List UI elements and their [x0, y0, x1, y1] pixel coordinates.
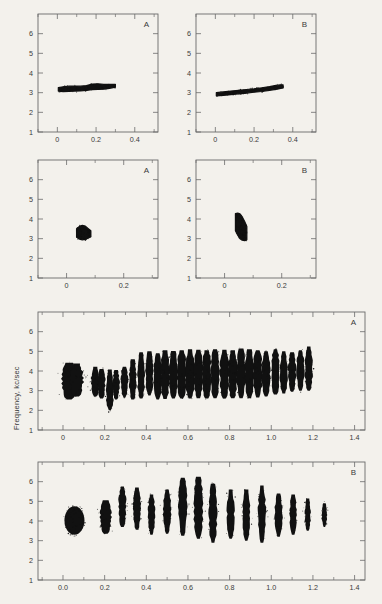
- x-tick-label: 0.4: [141, 583, 151, 592]
- y-tick-label: 6: [29, 175, 33, 184]
- x-tick-label: 0: [61, 433, 65, 442]
- x-tick-label: 0.6: [183, 583, 193, 592]
- chart-panel-a: 12345600.2A: [16, 154, 166, 298]
- x-tick-label: 0: [65, 281, 69, 290]
- y-tick-label: 6: [29, 477, 33, 486]
- y-tick-label: 4: [187, 69, 191, 78]
- y-tick-label: 1: [29, 274, 33, 283]
- y-tick-label: 1: [29, 128, 33, 137]
- x-tick-label: 0.2: [91, 135, 101, 144]
- y-tick-label: 6: [29, 29, 33, 38]
- y-tick-label: 1: [29, 426, 33, 435]
- y-tick-label: 3: [29, 386, 33, 395]
- y-tick-label: 2: [187, 254, 191, 263]
- y-tick-label: 3: [29, 536, 33, 545]
- x-tick-label: 0.2: [277, 281, 287, 290]
- y-tick-label: 5: [29, 195, 33, 204]
- y-tick-label: 3: [29, 234, 33, 243]
- x-tick-label: 0.2: [119, 281, 129, 290]
- y-tick-label: 3: [187, 234, 191, 243]
- x-tick-label: 0.0: [58, 583, 68, 592]
- x-tick-label: 1.0: [266, 433, 276, 442]
- panel-letter: B: [302, 20, 307, 29]
- y-tick-label: 2: [29, 108, 33, 117]
- spectrogram-figure: 12345600.20.4A12345600.20.4B12345600.2A1…: [0, 0, 382, 604]
- y-tick-label: 4: [187, 215, 191, 224]
- y-tick-label: 4: [29, 69, 33, 78]
- y-tick-label: 6: [187, 175, 191, 184]
- panel-letter: B: [351, 468, 356, 477]
- x-tick-label: 1.0: [266, 583, 276, 592]
- y-tick-label: 5: [187, 195, 191, 204]
- y-tick-label: 5: [29, 497, 33, 506]
- x-tick-label: 0.2: [249, 135, 259, 144]
- y-tick-label: 3: [187, 88, 191, 97]
- x-tick-label: 1.4: [350, 583, 360, 592]
- y-tick-label: 2: [29, 556, 33, 565]
- y-tick-label: 1: [187, 274, 191, 283]
- y-tick-label: 2: [29, 254, 33, 263]
- y-tick-label: 5: [187, 49, 191, 58]
- panel-letter: A: [144, 20, 150, 29]
- y-tick-label: 4: [29, 215, 33, 224]
- y-tick-label: 6: [29, 327, 33, 336]
- y-tick-label: 2: [187, 108, 191, 117]
- x-tick-label: 0: [213, 135, 217, 144]
- panel-letter: A: [144, 166, 150, 175]
- chart-panel-a: 12345600.20.4A: [16, 8, 166, 152]
- y-tick-label: 5: [29, 49, 33, 58]
- y-tick-label: 1: [29, 576, 33, 585]
- chart-panel-b: 1234560.00.20.40.60.81.01.21.4B: [16, 456, 373, 600]
- chart-panel-b: 12345600.2B: [174, 154, 324, 298]
- y-tick-label: 4: [29, 367, 33, 376]
- x-tick-label: 1.2: [308, 433, 318, 442]
- y-axis-label: Frequency, kc/sec: [12, 366, 21, 430]
- x-tick-label: 0.8: [225, 583, 235, 592]
- x-tick-label: 1.2: [308, 583, 318, 592]
- x-tick-label: 0.6: [183, 433, 193, 442]
- x-tick-label: 0.4: [141, 433, 151, 442]
- chart-panel-a: 12345600.20.40.60.81.01.21.4A: [16, 306, 373, 450]
- y-tick-label: 1: [187, 128, 191, 137]
- y-tick-label: 5: [29, 347, 33, 356]
- x-tick-label: 0.8: [225, 433, 235, 442]
- y-tick-label: 4: [29, 517, 33, 526]
- panel-letter: A: [351, 318, 357, 327]
- x-tick-label: 0: [223, 281, 227, 290]
- y-tick-label: 2: [29, 406, 33, 415]
- panel-letter: B: [302, 166, 307, 175]
- chart-panel-b: 12345600.20.4B: [174, 8, 324, 152]
- x-tick-label: 1.4: [350, 433, 360, 442]
- x-tick-label: 0.4: [130, 135, 140, 144]
- y-tick-label: 3: [29, 88, 33, 97]
- x-tick-label: 0: [55, 135, 59, 144]
- x-tick-label: 0.2: [100, 583, 110, 592]
- x-tick-label: 0.4: [288, 135, 298, 144]
- x-tick-label: 0.2: [100, 433, 110, 442]
- y-tick-label: 6: [187, 29, 191, 38]
